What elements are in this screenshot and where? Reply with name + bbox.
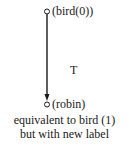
arrowhead-icon [45,94,50,101]
transition-diagram: (bird(0)) T (robin) equivalent to bird (… [0,0,129,150]
bottom-node-label: (robin) [52,98,85,110]
top-node-circle-icon [45,9,50,14]
bottom-node-circle-icon [45,102,50,107]
caption-line-1: equivalent to bird (1) [0,113,129,127]
edge-label: T [70,64,77,76]
caption-line-2: but with new label [0,127,129,141]
top-node-label: (bird(0)) [52,5,93,17]
